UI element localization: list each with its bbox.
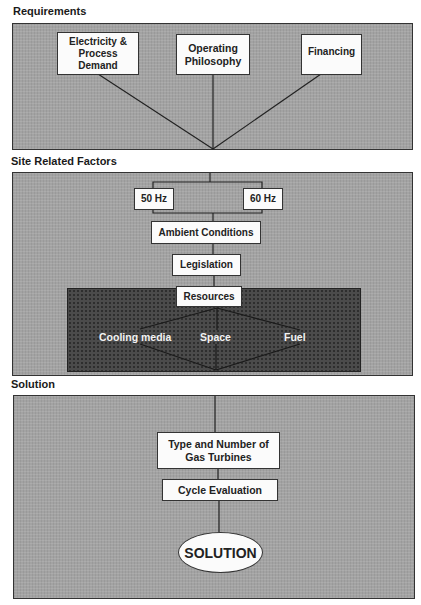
gas-turbines-node: Type and Number of Gas Turbines xyxy=(157,432,280,469)
ambient-conditions-label: Ambient Conditions xyxy=(159,227,254,239)
gas-turbines-label: Type and Number of Gas Turbines xyxy=(158,438,279,463)
cycle-evaluation-node: Cycle Evaluation xyxy=(162,479,278,501)
solution-heading: Solution xyxy=(11,378,55,390)
operating-philosophy-node: Operating Philosophy xyxy=(176,34,250,75)
cooling-media-label: Cooling media xyxy=(99,331,171,343)
legislation-label: Legislation xyxy=(180,259,233,271)
fuel-label: Fuel xyxy=(284,331,306,343)
electricity-demand-label: Electricity & Process Demand xyxy=(58,36,138,72)
legislation-node: Legislation xyxy=(172,254,241,276)
electricity-demand-node: Electricity & Process Demand xyxy=(57,32,139,75)
resources-label: Resources xyxy=(183,291,234,303)
solution-result-node: SOLUTION xyxy=(178,532,263,573)
ambient-conditions-node: Ambient Conditions xyxy=(151,221,261,244)
solution-result-label: SOLUTION xyxy=(184,545,256,561)
operating-philosophy-label: Operating Philosophy xyxy=(177,42,249,67)
frequency-60hz-node: 60 Hz xyxy=(243,188,283,210)
frequency-50hz-node: 50 Hz xyxy=(134,188,174,210)
frequency-50hz-label: 50 Hz xyxy=(141,193,167,205)
financing-label: Financing xyxy=(308,46,355,58)
requirements-heading: Requirements xyxy=(13,5,86,17)
site-factors-heading: Site Related Factors xyxy=(11,155,117,167)
space-label: Space xyxy=(200,331,231,343)
financing-node: Financing xyxy=(301,34,362,75)
resources-node: Resources xyxy=(176,286,242,307)
cycle-evaluation-label: Cycle Evaluation xyxy=(178,484,262,497)
frequency-60hz-label: 60 Hz xyxy=(250,193,276,205)
